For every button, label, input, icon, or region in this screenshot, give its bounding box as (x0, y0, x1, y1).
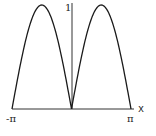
x-tick-label-min: -π (6, 114, 16, 124)
y-tick-label-1: 1 (65, 3, 71, 13)
x-axis-label: x (138, 104, 144, 114)
x-tick-label-max: π (127, 114, 134, 124)
